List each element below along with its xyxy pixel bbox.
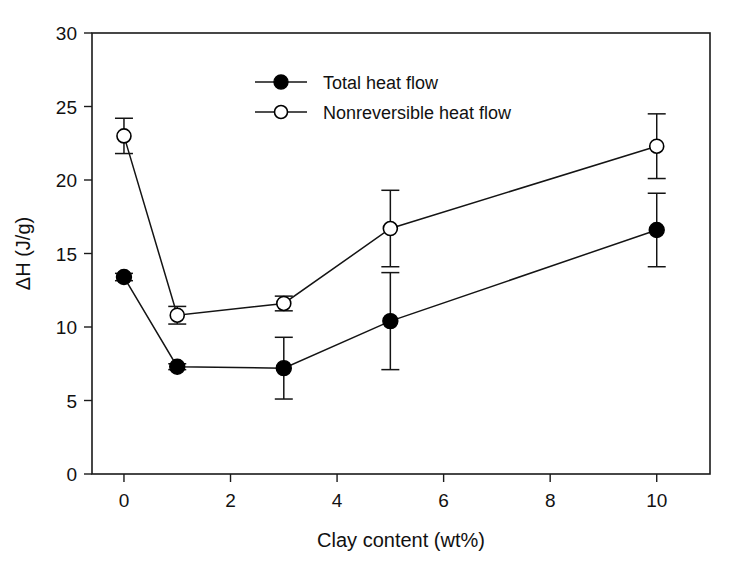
legend-label: Nonreversible heat flow [323,103,512,123]
data-point-filled-circle [276,361,291,376]
x-axis-ticks: 0246810 [119,474,668,511]
x-tick-label: 2 [225,490,236,511]
chart-figure: 0246810 051015202530 Clay content (wt%) … [0,0,734,574]
x-axis-title: Clay content (wt%) [317,529,485,551]
data-point-filled-circle [383,314,398,329]
chart-legend: Total heat flowNonreversible heat flow [255,73,512,123]
plot-frame [92,33,710,474]
legend-marker-filled-circle [274,75,288,89]
legend-entry: Nonreversible heat flow [255,103,512,123]
x-tick-label: 10 [646,490,667,511]
y-tick-label: 15 [56,244,77,265]
x-tick-label: 6 [438,490,449,511]
x-tick-label: 0 [119,490,130,511]
y-tick-label: 25 [56,97,77,118]
legend-entry: Total heat flow [255,73,439,93]
y-tick-label: 5 [66,391,77,412]
data-series-layer [115,114,666,399]
y-axis-title: ΔH (J/g) [12,217,34,290]
y-axis-ticks: 051015202530 [56,23,92,485]
y-tick-label: 30 [56,23,77,44]
line-chart-svg: 0246810 051015202530 Clay content (wt%) … [0,0,734,574]
x-tick-label: 8 [545,490,556,511]
y-tick-label: 10 [56,317,77,338]
data-point-filled-circle [116,270,131,285]
data-point-open-circle [383,222,397,236]
y-tick-label: 20 [56,170,77,191]
data-point-filled-circle [170,359,185,374]
data-point-open-circle [277,296,291,310]
y-tick-label: 0 [66,464,77,485]
data-point-open-circle [170,308,184,322]
legend-marker-open-circle [275,106,288,119]
data-point-open-circle [650,139,664,153]
data-point-open-circle [117,129,131,143]
plot-frame-border [92,33,710,474]
legend-label: Total heat flow [323,73,439,93]
x-tick-label: 4 [332,490,343,511]
data-point-filled-circle [649,222,664,237]
